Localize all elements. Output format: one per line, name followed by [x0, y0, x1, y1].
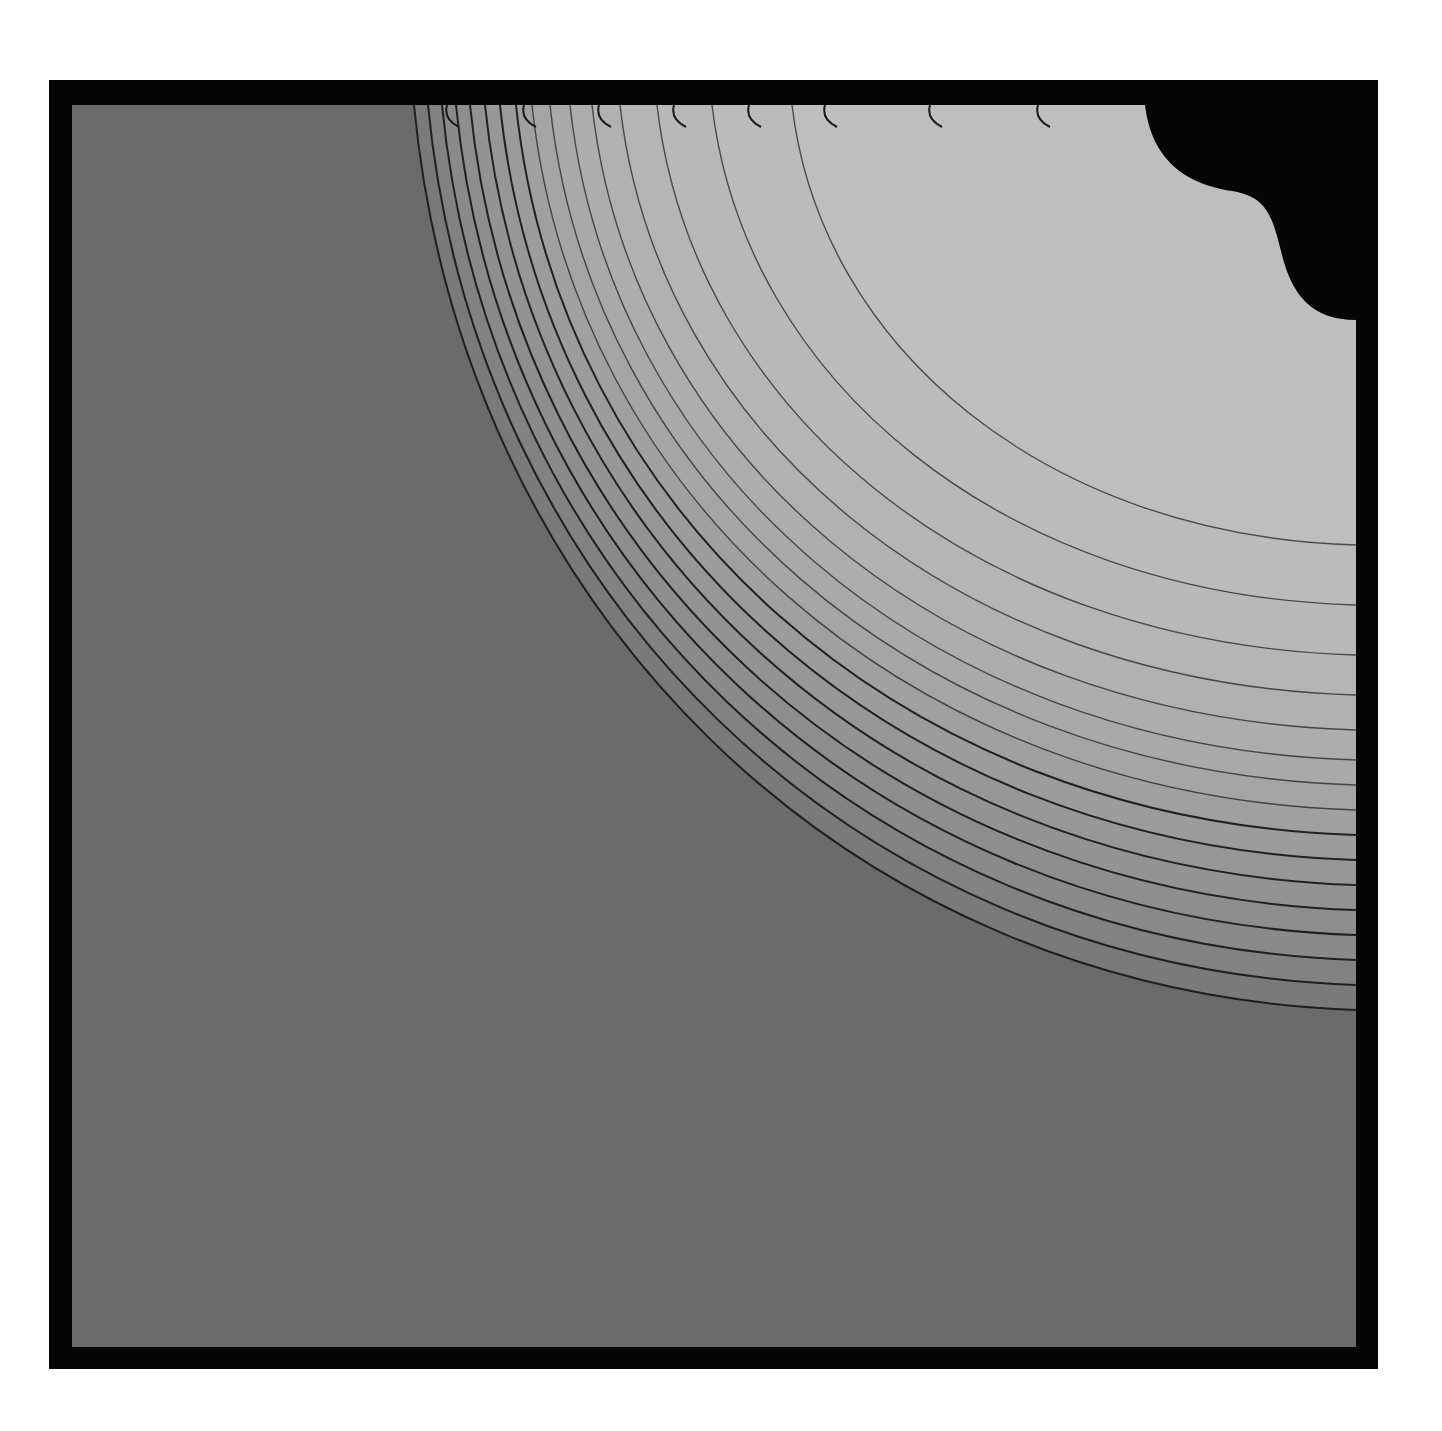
contour-lines: [72, 105, 1356, 1347]
contour-artwork: [72, 105, 1356, 1347]
